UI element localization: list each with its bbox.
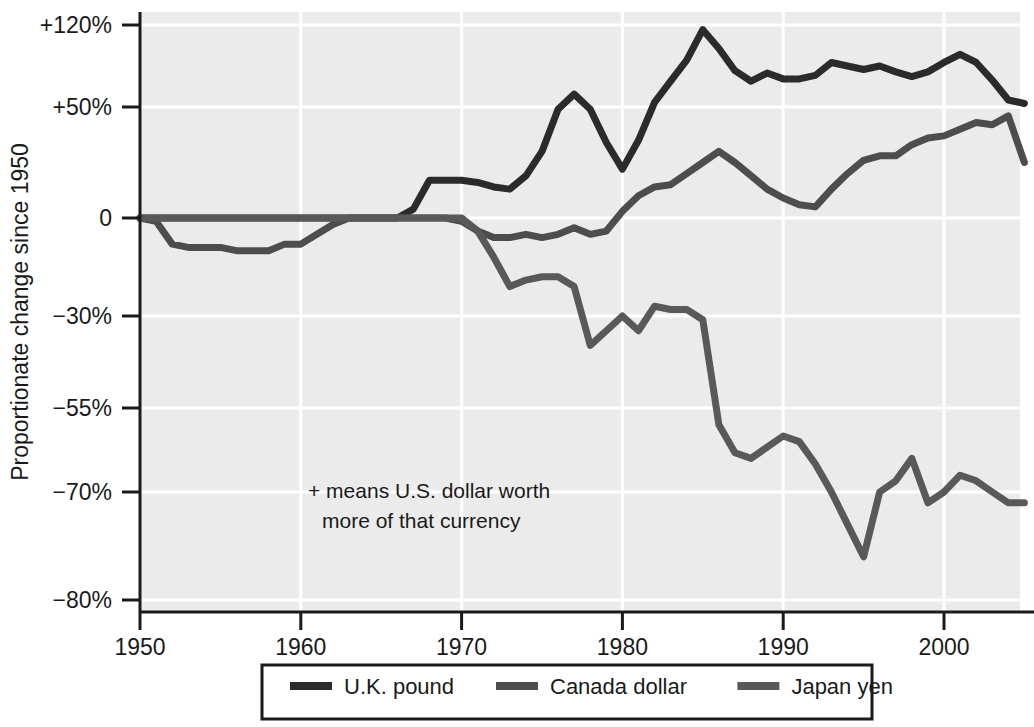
legend[interactable]: U.K. poundCanada dollarJapan yen <box>262 665 893 719</box>
x-tick-label: 2000 <box>918 634 969 660</box>
x-tick-label: 1990 <box>758 634 809 660</box>
annotation-line-2: more of that currency <box>322 509 521 532</box>
x-tick-label: 1950 <box>114 634 165 660</box>
y-axis-label: Proportionate change since 1950 <box>7 143 33 481</box>
y-tick-label: +120% <box>40 12 112 38</box>
x-tick-label: 1960 <box>275 634 326 660</box>
annotation-line-1: + means U.S. dollar worth <box>308 479 550 502</box>
legend-label[interactable]: U.K. pound <box>344 674 454 699</box>
y-tick-label: −80% <box>53 587 112 613</box>
y-tick-label: +50% <box>53 94 112 120</box>
chart-figure: +120%+50%0−30%−55%−70%−80% 1950196019701… <box>0 0 1034 727</box>
legend-label[interactable]: Canada dollar <box>550 674 687 699</box>
x-tick-label: 1980 <box>597 634 648 660</box>
y-tick-label: 0 <box>99 205 112 231</box>
y-tick-label: −70% <box>53 479 112 505</box>
y-tick-label: −30% <box>53 303 112 329</box>
legend-label[interactable]: Japan yen <box>791 674 893 699</box>
currency-change-line-chart: +120%+50%0−30%−55%−70%−80% 1950196019701… <box>0 0 1034 727</box>
y-tick-label: −55% <box>53 395 112 421</box>
x-tick-label: 1970 <box>436 634 487 660</box>
